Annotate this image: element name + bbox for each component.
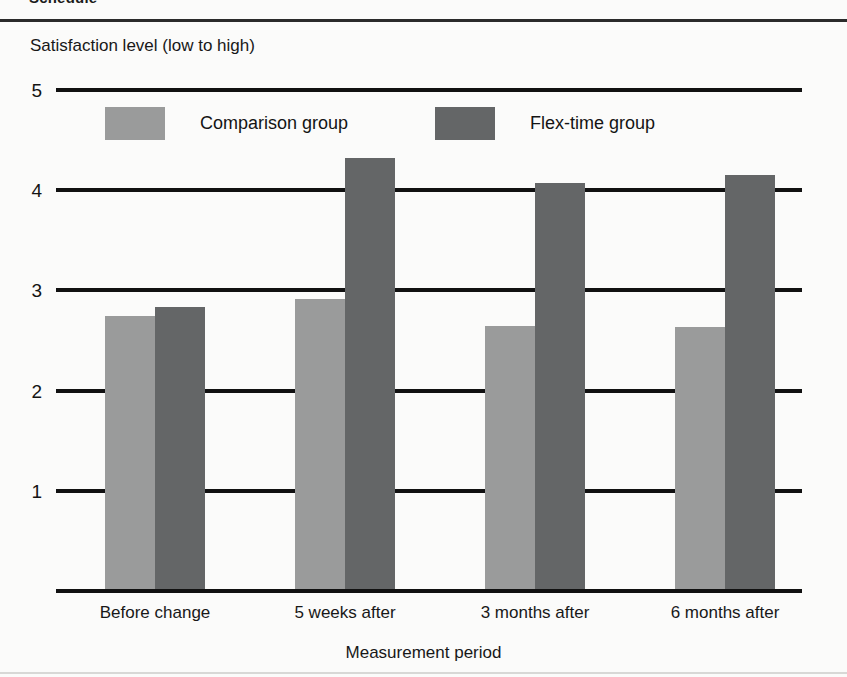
legend-item-flex-time-group: Flex-time group [435,107,655,140]
bar [345,158,395,589]
bar-series-container [56,88,802,593]
legend-item-comparison-group: Comparison group [105,107,348,140]
y-axis-tick-label: 4 [31,181,42,200]
legend-swatch-icon [105,107,165,140]
footer-divider [0,672,847,674]
bar [155,307,205,589]
bar-chart: Satisfaction level (low to high) 12345 B… [0,0,847,677]
x-axis-tick-labels: Before change5 weeks after3 months after… [56,603,804,633]
chart-page: Schedule Satisfaction level (low to high… [0,0,847,677]
y-axis-tick-label: 1 [31,481,42,500]
bar [295,299,345,589]
legend-swatch-icon [435,107,495,140]
legend-label: Flex-time group [530,113,655,134]
bar [485,326,535,589]
y-axis-title: Satisfaction level (low to high) [30,36,255,56]
x-axis-tick-label: 6 months after [671,603,780,623]
x-axis-tick-label: 3 months after [481,603,590,623]
bar [535,183,585,589]
legend-label: Comparison group [200,113,348,134]
bar [675,327,725,589]
bar [725,175,775,589]
y-axis-tick-label: 3 [31,281,42,300]
bar [105,316,155,589]
x-axis-title: Measurement period [0,643,847,663]
y-axis-tick-label: 5 [31,81,42,100]
y-axis-tick-label: 2 [31,381,42,400]
plot-area: 12345 [56,88,804,598]
x-axis-tick-label: 5 weeks after [294,603,395,623]
x-axis-tick-label: Before change [100,603,211,623]
